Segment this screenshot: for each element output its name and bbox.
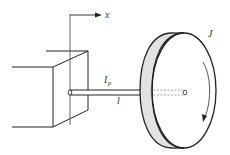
moment-of-inertia-label: J [208, 28, 213, 39]
x-axis: x [70, 9, 110, 125]
arrow-right-icon [95, 13, 102, 18]
x-axis-label: x [104, 9, 110, 20]
disc [140, 33, 216, 148]
torsion-diagram: x I p l J [0, 0, 230, 155]
length-label: l [117, 95, 120, 106]
fixed-block [12, 51, 88, 127]
disc-center [183, 90, 187, 95]
polar-inertia-subscript: p [107, 79, 112, 86]
